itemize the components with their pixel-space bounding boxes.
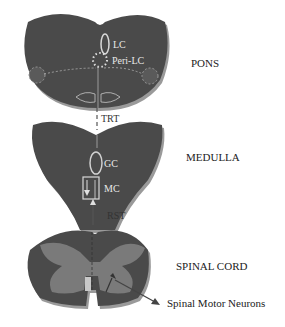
peri-lc-label: Peri-LC (112, 55, 144, 66)
spinal-cord-label: SPINAL CORD (176, 260, 247, 272)
medulla-section (32, 122, 164, 233)
brainstem-diagram (0, 0, 285, 327)
pons-label: PONS (191, 57, 219, 69)
medulla-label: MEDULLA (186, 151, 240, 163)
mc-label: MC (104, 183, 120, 194)
spinal-cord-section (28, 230, 151, 309)
pons-section (24, 14, 169, 111)
spinal-motor-neurons-label: Spinal Motor Neurons (167, 297, 265, 309)
rst-label: RST (107, 210, 125, 221)
trt-label: TRT (101, 113, 119, 124)
gc-label: GC (104, 158, 118, 169)
lc-label: LC (113, 39, 126, 50)
